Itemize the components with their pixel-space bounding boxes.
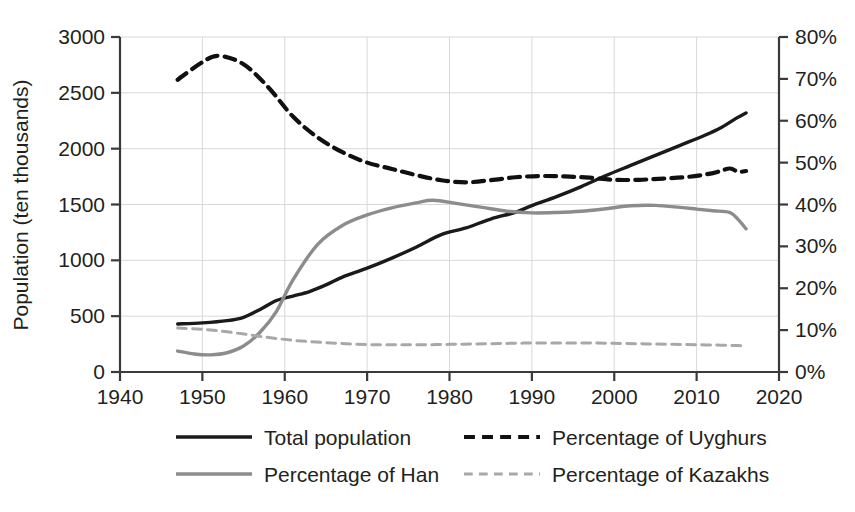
right-tick-label: 40% [795, 193, 837, 216]
left-tick-label: 1500 [58, 193, 105, 216]
series-line-total-population [178, 113, 746, 324]
series-line-percentage-of-uyghurs [178, 56, 746, 183]
legend-label-total-population: Total population [264, 426, 411, 449]
right-tick-label: 50% [795, 151, 837, 174]
left-tick-label: 0 [93, 360, 105, 383]
right-axis-tick-labels: 0%10%20%30%40%50%60%70%80% [795, 25, 837, 383]
x-tick-label: 1940 [97, 385, 144, 408]
right-tick-label: 60% [795, 109, 837, 132]
legend-label-percentage-of-uyghurs: Percentage of Uyghurs [552, 426, 767, 449]
right-tick-label: 70% [795, 67, 837, 90]
left-tick-label: 2500 [58, 81, 105, 104]
chart-figure: 050010001500200025003000 0%10%20%30%40%5… [0, 0, 855, 512]
x-tick-label: 1960 [261, 385, 308, 408]
right-tick-label: 30% [795, 234, 837, 257]
data-series-group [178, 56, 746, 355]
legend-label-percentage-of-kazakhs: Percentage of Kazakhs [552, 463, 769, 486]
left-tick-label: 500 [70, 304, 105, 327]
x-tick-label: 1970 [344, 385, 391, 408]
x-tick-label: 2010 [673, 385, 720, 408]
y-axis-title: Population (ten thousands) [9, 79, 32, 330]
x-tick-label: 1950 [179, 385, 226, 408]
population-ethnicity-line-chart: 050010001500200025003000 0%10%20%30%40%5… [0, 0, 855, 512]
right-axis-ticks [779, 37, 788, 372]
legend-label-percentage-of-han: Percentage of Han [264, 463, 439, 486]
chart-legend: Total populationPercentage of UyghursPer… [176, 426, 769, 486]
left-tick-label: 3000 [58, 25, 105, 48]
right-tick-label: 20% [795, 276, 837, 299]
right-tick-label: 10% [795, 318, 837, 341]
series-line-percentage-of-han [178, 200, 746, 355]
right-tick-label: 0% [795, 360, 825, 383]
left-tick-label: 2000 [58, 137, 105, 160]
x-tick-label: 2020 [756, 385, 803, 408]
left-tick-label: 1000 [58, 248, 105, 271]
x-tick-label: 1980 [426, 385, 473, 408]
bottom-axis-ticks [120, 372, 779, 381]
right-tick-label: 80% [795, 25, 837, 48]
x-axis-tick-labels: 194019501960197019801990200020102020 [97, 385, 803, 408]
left-axis-ticks [111, 37, 120, 372]
x-tick-label: 2000 [591, 385, 638, 408]
left-axis-tick-labels: 050010001500200025003000 [58, 25, 105, 383]
x-tick-label: 1990 [509, 385, 556, 408]
